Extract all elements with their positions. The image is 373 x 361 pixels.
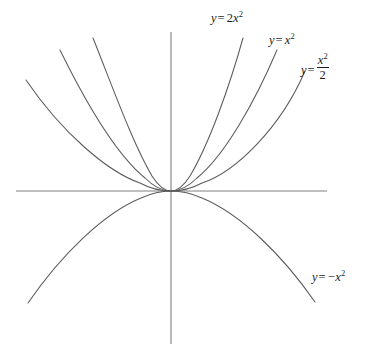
label-eq-half: = [307, 63, 317, 77]
label-lhs-half: y [301, 63, 307, 77]
curve-y-equals-x-squared [60, 50, 277, 191]
curve-label-negative-x-squared: y=−x2 [312, 271, 345, 284]
label-exponent-negx2: 2 [341, 268, 345, 278]
label-exponent-2x2: 2 [238, 9, 242, 19]
label-lhs-negx2: y [312, 270, 318, 284]
label-exponent-x2: 2 [290, 31, 294, 41]
label-lhs-2x2: y [211, 11, 217, 25]
curve-label-x-squared: y=x2 [269, 34, 295, 47]
fraction-denominator: 2 [317, 69, 329, 82]
parabola-figure: y=2x2 y=x2 y=x22 y=−x2 [0, 0, 373, 361]
curve-y-equals-2x-squared [93, 38, 243, 191]
label-var-negx2: x [335, 270, 341, 284]
fraction-x-squared-over-two: x22 [317, 54, 329, 82]
label-eq-2x2: = [217, 11, 227, 25]
label-eq-negx2: = [318, 270, 328, 284]
label-lhs-x2: y [269, 33, 275, 47]
fraction-numerator: x2 [317, 54, 329, 67]
curve-y-equals-half-x-squared [26, 71, 305, 191]
fraction-numerator-exponent: 2 [323, 51, 327, 61]
label-eq-x2: = [275, 33, 285, 47]
curve-label-2x-squared: y=2x2 [211, 12, 243, 25]
curve-label-half-x-squared: y=x22 [301, 55, 329, 83]
